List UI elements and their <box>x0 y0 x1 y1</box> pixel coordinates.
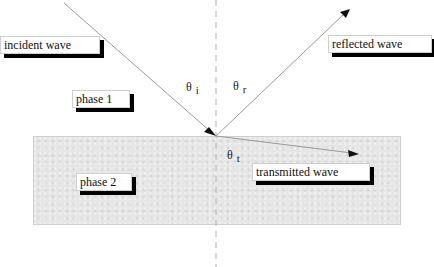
phase-2-label: phase 2 <box>76 173 132 191</box>
angle-subscript: t <box>237 152 240 164</box>
transmitted-wave-label: transmitted wave <box>252 163 370 181</box>
angle-transmission: θt <box>227 148 240 163</box>
angle-incidence: θi <box>186 80 199 95</box>
phase-1-label: phase 1 <box>72 90 130 108</box>
reflected-wave-label: reflected wave <box>328 35 432 53</box>
theta-symbol: θ <box>233 79 239 93</box>
incident-arrowhead-icon <box>204 127 216 136</box>
theta-symbol: θ <box>227 148 233 162</box>
theta-symbol: θ <box>186 80 192 94</box>
reflected-ray <box>216 14 344 136</box>
angle-subscript: r <box>243 83 247 95</box>
incident-ray <box>64 3 211 132</box>
incident-wave-label: incident wave <box>0 36 100 54</box>
angle-reflection: θr <box>233 79 246 94</box>
transmitted-arrowhead-icon <box>348 150 359 157</box>
angle-subscript: i <box>196 84 199 96</box>
